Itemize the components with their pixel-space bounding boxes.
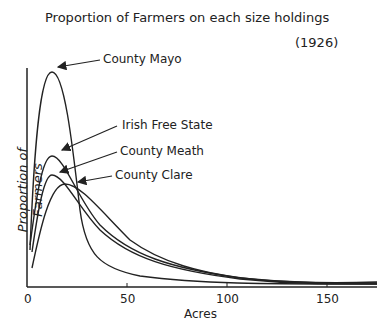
label-irish-free-state: Irish Free State: [122, 118, 213, 132]
label-county-clare: County Clare: [115, 168, 193, 182]
x-tick-100: 100: [216, 292, 239, 306]
arrow-meath: [60, 152, 117, 172]
x-tick-150: 150: [316, 292, 339, 306]
x-tick-50: 50: [120, 292, 135, 306]
series-county-clare: [32, 184, 377, 283]
label-county-meath: County Meath: [120, 144, 204, 158]
series-county-mayo: [30, 72, 377, 284]
chart-plot: [0, 0, 377, 323]
x-tick-0: 0: [24, 292, 32, 306]
arrow-clare: [78, 176, 112, 182]
arrow-mayo: [58, 60, 100, 67]
x-axis-label: Acres: [184, 307, 217, 321]
y-axis-label: Proportion of Farmers: [15, 125, 45, 255]
label-county-mayo: County Mayo: [103, 52, 182, 66]
